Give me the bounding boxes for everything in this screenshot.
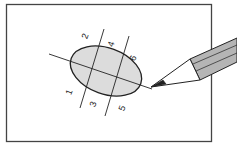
ellipse-drawing-diagram: 2 4 6 1 3 5 — [0, 0, 237, 147]
